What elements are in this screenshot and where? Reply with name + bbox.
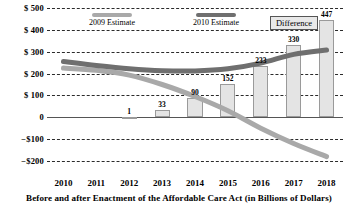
bar-label-2012: 1 (127, 107, 131, 116)
bar-label-2013: 33 (158, 100, 166, 109)
y-axis-labels: −$200−$1000$ 100$ 200$ 300$ 400$ 500 (0, 8, 44, 161)
y-axis-tick-label: $ 300 (24, 47, 44, 57)
bar-label-2014: 90 (191, 88, 199, 97)
y-axis-tick-label: 0 (40, 112, 44, 122)
y-axis-tick-label: $ 100 (24, 90, 44, 100)
bar-label-2016: 233 (255, 56, 266, 65)
y-axis-tick-label: −$200 (21, 156, 44, 166)
legend-item-2010-estimate[interactable]: 2010 Estimate (168, 9, 264, 27)
legend-label-difference: Difference (270, 16, 318, 30)
line-2010-estimate (63, 50, 326, 71)
x-axis-tick-2012: 2012 (120, 178, 138, 188)
x-axis-tick-2018: 2018 (318, 178, 336, 188)
legend-label-2010-estimate: 2010 Estimate (168, 18, 264, 27)
y-axis-tick-label: −$100 (21, 134, 44, 144)
bar-label-2017: 330 (288, 35, 299, 44)
x-axis-tick-2014: 2014 (186, 178, 204, 188)
legend-item-2009-estimate[interactable]: 2009 Estimate (64, 9, 160, 27)
gridline (47, 161, 343, 162)
legend-label-2009-estimate: 2009 Estimate (64, 18, 160, 27)
chart-legend: 2009 Estimate 2010 Estimate Difference (64, 9, 294, 31)
x-axis-tick-2011: 2011 (88, 178, 106, 188)
x-axis-tick-2016: 2016 (252, 178, 270, 188)
chart-container: −$200−$1000$ 100$ 200$ 300$ 400$ 500 133… (0, 0, 358, 214)
bar-label-2015: 152 (222, 74, 233, 83)
x-axis-labels: 201020112012201320142015201620172018 (47, 178, 343, 192)
x-axis-tick-2010: 2010 (54, 178, 72, 188)
y-axis-tick-label: $ 200 (24, 69, 44, 79)
chart-caption: Before and after Enactment of the Afford… (0, 193, 358, 203)
y-axis-tick-label: $ 400 (24, 25, 44, 35)
y-axis-tick-label: $ 500 (24, 3, 44, 13)
legend-swatch-2010-estimate (196, 13, 236, 17)
line-2009-estimate (63, 68, 326, 157)
x-axis-tick-2013: 2013 (153, 178, 171, 188)
legend-item-difference[interactable]: Difference (264, 12, 324, 30)
x-axis-tick-2017: 2017 (285, 178, 303, 188)
legend-swatch-2009-estimate (92, 13, 132, 17)
x-axis-tick-2015: 2015 (219, 178, 237, 188)
